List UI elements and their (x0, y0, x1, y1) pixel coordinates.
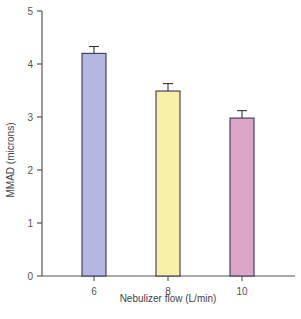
y-tick-label: 4 (27, 59, 33, 70)
bar-8 (156, 91, 180, 276)
bar-chart: 012345 6810 Nebulizer flow (L/min) MMAD … (0, 0, 301, 319)
y-tick-label: 5 (27, 6, 33, 17)
y-tick-label: 3 (27, 112, 33, 123)
y-ticks: 012345 (27, 6, 42, 282)
bar-10 (230, 118, 254, 276)
y-tick-label: 0 (27, 271, 33, 282)
x-tick-label: 6 (91, 286, 97, 297)
y-tick-label: 2 (27, 165, 33, 176)
y-tick-label: 1 (27, 218, 33, 229)
x-axis-label: Nebulizer flow (L/min) (120, 293, 217, 304)
bar-6 (82, 53, 106, 276)
x-tick-label: 10 (236, 286, 248, 297)
y-axis-label: MMAD (microns) (5, 123, 16, 198)
bars (82, 47, 254, 276)
